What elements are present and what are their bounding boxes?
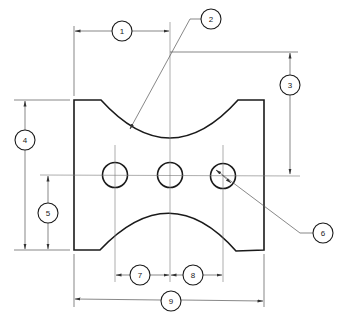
leader-2 bbox=[130, 19, 201, 129]
balloon-9: 9 bbox=[161, 291, 181, 311]
balloon-2: 2 bbox=[201, 9, 221, 29]
balloon-4: 4 bbox=[15, 130, 35, 150]
center-lines bbox=[40, 22, 300, 282]
balloon-3: 3 bbox=[280, 75, 300, 95]
svg-text:6: 6 bbox=[321, 229, 326, 238]
svg-text:1: 1 bbox=[120, 27, 125, 36]
extension-lines bbox=[14, 26, 298, 307]
balloon-6: 6 bbox=[313, 223, 333, 243]
svg-text:7: 7 bbox=[138, 271, 143, 280]
svg-text:8: 8 bbox=[191, 271, 196, 280]
balloon-1: 1 bbox=[112, 21, 132, 41]
balloon-5: 5 bbox=[38, 203, 58, 223]
balloon-7: 7 bbox=[130, 265, 150, 285]
svg-text:9: 9 bbox=[169, 297, 174, 306]
svg-text:3: 3 bbox=[288, 81, 293, 90]
technical-drawing: 1 2 3 4 5 6 7 8 9 bbox=[0, 0, 344, 325]
svg-text:5: 5 bbox=[46, 209, 51, 218]
svg-text:4: 4 bbox=[23, 136, 28, 145]
svg-text:2: 2 bbox=[209, 15, 214, 24]
balloon-8: 8 bbox=[183, 265, 203, 285]
